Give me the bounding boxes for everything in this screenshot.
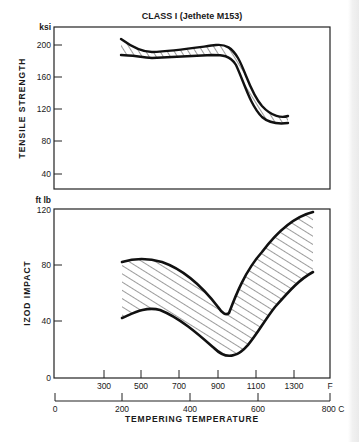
- c-tick-0: 0: [53, 404, 58, 414]
- lower-tick-120: 120: [37, 205, 51, 215]
- upper-tick-160: 160: [37, 72, 51, 82]
- lower-tick-80: 80: [42, 260, 52, 270]
- lower-y-ticks: [54, 265, 62, 321]
- upper-tick-40: 40: [42, 169, 52, 179]
- lower-unit-label: ft lb: [35, 195, 51, 205]
- page-edge-shadow: [348, 0, 359, 442]
- f-tick-1100: 1100: [247, 381, 266, 391]
- chart-figure: CLASS I (Jethete M153) ksi 200 160 120 8…: [0, 0, 359, 442]
- f-tick-900: 900: [211, 381, 225, 391]
- upper-y-axis-label: TENSILE STRENGTH: [17, 57, 27, 158]
- upper-tick-80: 80: [42, 136, 52, 146]
- f-unit-label: F: [327, 381, 332, 391]
- upper-unit-label: ksi: [39, 22, 51, 32]
- chart-svg: CLASS I (Jethete M153) ksi 200 160 120 8…: [0, 0, 359, 442]
- lower-tick-0: 0: [46, 373, 51, 383]
- lower-y-axis-label: IZOD IMPACT: [22, 260, 32, 326]
- c-tick-200: 200: [115, 404, 129, 414]
- f-tick-700: 700: [172, 381, 186, 391]
- c-tick-400: 400: [183, 404, 197, 414]
- x-axis-label: TEMPERING TEMPERATURE: [125, 414, 259, 424]
- fahrenheit-ticks: [104, 370, 294, 378]
- f-tick-1300: 1300: [285, 381, 304, 391]
- c-tick-600: 600: [251, 404, 265, 414]
- upper-y-ticks: [54, 45, 62, 174]
- lower-tick-40: 40: [42, 316, 52, 326]
- upper-tick-200: 200: [37, 40, 51, 50]
- chart-title: CLASS I (Jethete M153): [142, 11, 243, 21]
- impact-band-fill: [122, 212, 313, 356]
- f-tick-500: 500: [134, 381, 148, 391]
- upper-tick-120: 120: [37, 104, 51, 114]
- celsius-axis: 0 200 400 600 800 C TEMPERING TEMPERATUR…: [53, 393, 345, 424]
- c-tick-800: 800 C: [322, 404, 345, 414]
- izod-impact-chart: ft lb 120 80 40 0 IZOD IMPACT 300 500 70…: [22, 195, 333, 391]
- tensile-strength-chart: ksi 200 160 120 80 40 TENSILE STRENGTH: [17, 22, 330, 189]
- f-tick-300: 300: [97, 381, 111, 391]
